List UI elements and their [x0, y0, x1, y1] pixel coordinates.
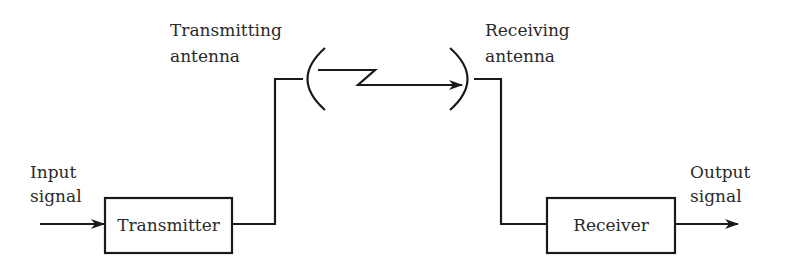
input-signal-label-line1: Input: [30, 162, 76, 182]
receiving-antenna-label-line2: antenna: [485, 46, 555, 66]
transmitter-antenna-wire: [232, 79, 303, 224]
receiving-antenna-label-line1: Receiving: [485, 20, 570, 40]
radio-link-diagram: Transmitting antenna Receiving antenna I…: [0, 0, 793, 273]
transmitting-antenna-dish-icon: [308, 48, 326, 110]
transmitting-antenna-label-line2: antenna: [170, 46, 240, 66]
receiver-label: Receiver: [573, 215, 650, 235]
receiver-block: Receiver: [547, 198, 675, 253]
transmitter-block: Transmitter: [105, 198, 232, 253]
input-signal-label-line2: signal: [30, 186, 82, 206]
transmitter-label: Transmitter: [117, 215, 221, 235]
transmitting-antenna-label-line1: Transmitting: [170, 20, 282, 40]
output-signal-label-line2: signal: [690, 186, 742, 206]
wireless-signal-arrow: [318, 70, 462, 85]
antenna-receiver-wire: [474, 79, 547, 224]
output-signal-label-line1: Output: [690, 162, 751, 182]
receiving-antenna-dish-icon: [450, 48, 468, 110]
